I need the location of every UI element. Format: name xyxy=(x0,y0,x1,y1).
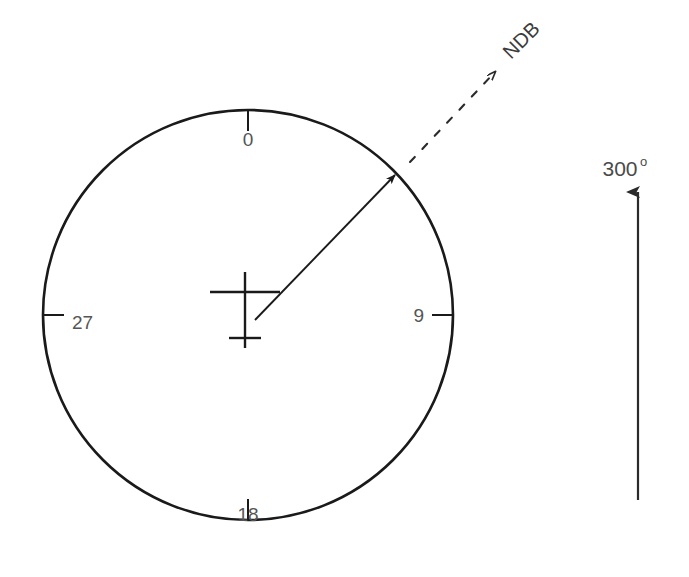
tick-label-0: 0 xyxy=(243,129,254,150)
ndb-dashed-line xyxy=(410,72,495,162)
diagram-canvas: 0 9 18 27 NDB 300 o xyxy=(0,0,689,577)
tick-label-9: 9 xyxy=(413,305,424,326)
bearing-diagram: 0 9 18 27 NDB 300 o xyxy=(0,0,689,577)
aircraft-symbol xyxy=(210,272,280,348)
ndb-label: NDB xyxy=(498,17,543,62)
degree-symbol: o xyxy=(640,154,647,169)
compass-circle xyxy=(43,110,453,520)
heading-value-label: 300 xyxy=(602,157,637,180)
tick-label-27: 27 xyxy=(72,312,93,333)
bearing-needle xyxy=(255,175,395,320)
tick-label-18: 18 xyxy=(237,504,258,525)
